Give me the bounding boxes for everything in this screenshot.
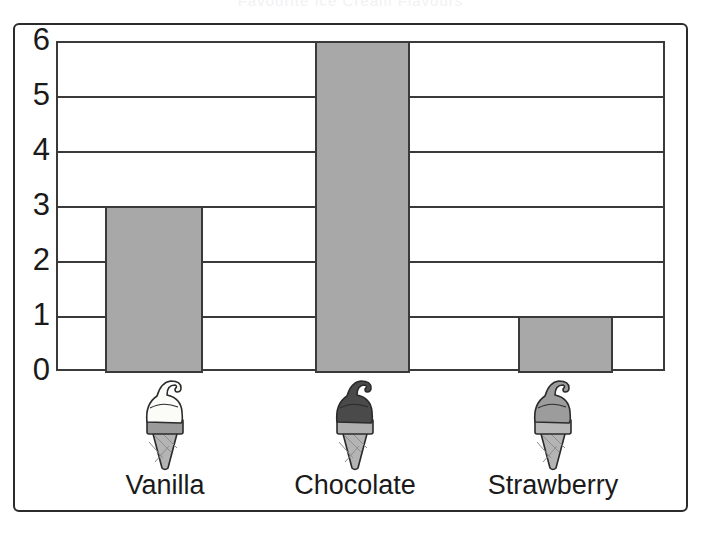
y-tick-label-3: 3 bbox=[10, 189, 50, 220]
chart-title: Favourite Ice Cream Flavours bbox=[0, 0, 701, 8]
y-tick-label-6: 6 bbox=[10, 24, 50, 55]
y-tick-label-0: 0 bbox=[10, 354, 50, 385]
bar-chart-figure: Favourite Ice Cream Flavours 6 5 4 3 2 1… bbox=[0, 0, 701, 535]
y-axis: 6 5 4 3 2 1 0 bbox=[6, 41, 50, 371]
category-label-vanilla: Vanilla bbox=[55, 470, 275, 500]
y-tick-label-2: 2 bbox=[10, 244, 50, 275]
vanilla-ice-cream-cone-icon bbox=[125, 372, 205, 472]
y-tick-label-5: 5 bbox=[10, 79, 50, 110]
bar-strawberry[interactable] bbox=[518, 316, 613, 373]
bar-chocolate[interactable] bbox=[315, 41, 410, 373]
y-tick-label-1: 1 bbox=[10, 299, 50, 330]
y-tick-label-4: 4 bbox=[10, 134, 50, 165]
chocolate-ice-cream-cone-icon bbox=[315, 372, 395, 472]
category-label-strawberry: Strawberry bbox=[443, 470, 663, 500]
bars-layer bbox=[56, 41, 665, 373]
bar-vanilla[interactable] bbox=[105, 206, 203, 373]
strawberry-ice-cream-cone-icon bbox=[513, 372, 593, 472]
category-label-chocolate: Chocolate bbox=[245, 470, 465, 500]
